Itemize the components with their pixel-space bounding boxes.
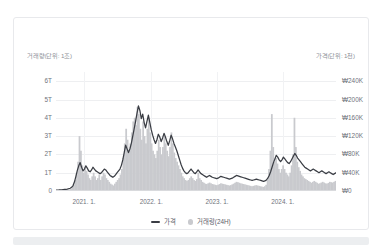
chart-canvas bbox=[56, 72, 336, 191]
left-axis-tick-label: 0 bbox=[27, 188, 52, 194]
left-axis-tick-label: 2T bbox=[27, 151, 52, 157]
line-marker-icon bbox=[151, 221, 160, 223]
right-axis-tick-label: ₩160K bbox=[342, 115, 382, 121]
content-placeholder-bar bbox=[13, 237, 369, 245]
left-axis-tick-label: 3T bbox=[27, 133, 52, 139]
x-axis-tick-label: 2023. 1. bbox=[187, 199, 247, 205]
x-axis-tick-label: 2024. 1. bbox=[253, 199, 313, 205]
chart-legend: 가격 거래량(24H) bbox=[14, 219, 368, 225]
x-axis-tick-label: 2021. 1. bbox=[54, 199, 114, 205]
left-axis-tick-label: 1T bbox=[27, 170, 52, 176]
volume-bar-series bbox=[56, 107, 336, 191]
axis-baseline bbox=[56, 190, 336, 191]
right-axis-tick-label: ₩0 bbox=[342, 188, 382, 194]
x-axis-tick-label: 2022. 1. bbox=[121, 199, 181, 205]
left-axis-tick-label: 4T bbox=[27, 115, 52, 121]
chart-card: 거래량(단위: 1조) 가격(단위: 1천) 6T5T4T3T2T1T0 ₩24… bbox=[13, 17, 369, 230]
right-axis-tick-label: ₩200K bbox=[342, 97, 382, 103]
right-axis-tick-label: ₩120K bbox=[342, 133, 382, 139]
legend-label-volume: 거래량(24H) bbox=[197, 219, 231, 225]
legend-item-price[interactable]: 가격 bbox=[151, 219, 176, 225]
dot-marker-icon bbox=[188, 219, 194, 225]
right-axis-tick-label: ₩80K bbox=[342, 151, 382, 157]
right-axis-tick-label: ₩40K bbox=[342, 170, 382, 176]
legend-item-volume[interactable]: 거래량(24H) bbox=[188, 219, 231, 225]
plot-area bbox=[56, 72, 336, 191]
screenshot-root: 거래량(단위: 1조) 가격(단위: 1천) 6T5T4T3T2T1T0 ₩24… bbox=[0, 0, 382, 245]
legend-label-price: 가격 bbox=[164, 219, 176, 225]
right-axis-unit-caption: 가격(단위: 1천) bbox=[316, 51, 355, 60]
right-axis-tick-label: ₩240K bbox=[342, 78, 382, 84]
left-axis-unit-caption: 거래량(단위: 1조) bbox=[27, 51, 72, 60]
left-axis-tick-label: 5T bbox=[27, 97, 52, 103]
left-axis-tick-label: 6T bbox=[27, 78, 52, 84]
